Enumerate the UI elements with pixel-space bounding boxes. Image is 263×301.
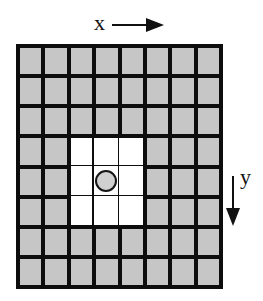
grid-cell (172, 259, 193, 285)
grid-cell (172, 169, 193, 195)
grid-cell (45, 259, 66, 285)
grid-cell-highlighted (71, 166, 92, 195)
grid-cell (71, 108, 92, 134)
arrow-down-icon (226, 176, 240, 226)
grid-cell (147, 138, 168, 164)
grid-cell (20, 48, 41, 74)
grid-cell-highlighted (94, 196, 118, 225)
grid-cell (122, 229, 143, 255)
grid-cell-highlighted (71, 138, 92, 164)
grid-cell (71, 78, 92, 104)
y-axis-label: y (240, 166, 251, 188)
grid-cell (45, 138, 66, 164)
grid-cell (96, 78, 117, 104)
grid-cell (172, 138, 193, 164)
grid-cell (45, 169, 66, 195)
grid-cell (198, 78, 219, 104)
grid-cell (45, 108, 66, 134)
grid-cell (198, 108, 219, 134)
grid-cell (198, 199, 219, 225)
grid-cell (96, 108, 117, 134)
grid-cell (172, 199, 193, 225)
grid-cell-highlighted (119, 196, 143, 225)
grid-cell (20, 169, 41, 195)
grid-cell (96, 48, 117, 74)
grid-cell (96, 259, 117, 285)
grid-cell (71, 229, 92, 255)
grid-cell (198, 229, 219, 255)
grid-cell (198, 48, 219, 74)
grid-cell (45, 78, 66, 104)
grid-cell (147, 108, 168, 134)
grid-cell (198, 138, 219, 164)
grid-cell (71, 48, 92, 74)
grid-cell-highlighted (71, 196, 92, 225)
grid-cell (20, 78, 41, 104)
grid-cell (20, 108, 41, 134)
pixel-grid (16, 44, 223, 289)
arrow-right-icon (112, 18, 164, 32)
grid-cell (45, 48, 66, 74)
grid-cell (20, 199, 41, 225)
grid-cell (122, 108, 143, 134)
grid-cell (96, 229, 117, 255)
grid-cell-highlighted (119, 166, 143, 195)
grid-cell (172, 48, 193, 74)
grid-cell (20, 259, 41, 285)
circle-marker-icon (95, 170, 117, 192)
grid-cell (45, 229, 66, 255)
grid-cell (20, 229, 41, 255)
grid-cell (198, 259, 219, 285)
grid-cell (71, 259, 92, 285)
grid-cell (198, 169, 219, 195)
grid-cell (147, 78, 168, 104)
grid-cell (147, 229, 168, 255)
grid-cell-highlighted (119, 138, 143, 164)
grid-cell (172, 78, 193, 104)
grid-cell (172, 229, 193, 255)
grid-cell-highlighted (94, 138, 118, 164)
grid-cell (147, 259, 168, 285)
grid-cell (122, 48, 143, 74)
grid-cell (122, 259, 143, 285)
grid-cell (147, 169, 168, 195)
grid-cell (172, 108, 193, 134)
grid-cell (122, 78, 143, 104)
grid-cell (147, 48, 168, 74)
grid-cell (45, 199, 66, 225)
grid-cell (147, 199, 168, 225)
x-axis-label: x (94, 12, 105, 34)
grid-cell (20, 138, 41, 164)
